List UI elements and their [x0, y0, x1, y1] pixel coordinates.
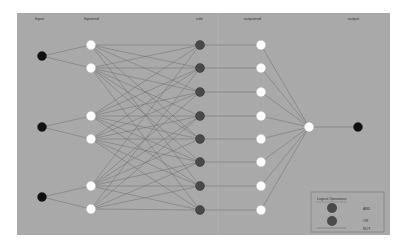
node-input-2: [38, 193, 47, 202]
node-rule-1: [196, 64, 205, 73]
edge-inputrnd-rule: [91, 139, 200, 162]
legend-or-icon: [327, 216, 337, 226]
node-outputrnd-7: [257, 206, 266, 215]
column-label-rule: rule: [196, 16, 203, 21]
edge-inputrnd-rule: [91, 45, 200, 116]
node-rule-5: [196, 158, 205, 167]
edge-input-inputrnd: [42, 197, 91, 209]
node-outputrnd-5: [257, 158, 266, 167]
node-outputrnd-2: [257, 88, 266, 97]
node-output-0: [354, 123, 363, 132]
node-inputrnd-2: [87, 112, 96, 121]
node-inputrnd-4: [87, 182, 96, 191]
node-rule-2: [196, 88, 205, 97]
edge-inputrnd-rule: [91, 92, 200, 116]
node-outputrnd-3: [257, 112, 266, 121]
legend-or-label: OR: [363, 219, 369, 223]
column-label-outputrnd: outputrnd: [244, 16, 261, 21]
node-outputrnd-6: [257, 182, 266, 191]
node-rule-4: [196, 135, 205, 144]
legend-title: Logical Operations: [317, 197, 346, 201]
edge-input-inputrnd: [42, 186, 91, 197]
legend-not-label: NOT: [363, 227, 371, 231]
node-rule-7: [196, 206, 205, 215]
edge-outputrnd-sum: [261, 45, 309, 127]
legend-and-icon: [327, 203, 337, 213]
edge-inputrnd-rule: [91, 116, 200, 209]
node-rule-3: [196, 112, 205, 121]
legend: Logical Operations AND OR NOT: [311, 192, 384, 232]
column-label-output: output: [348, 16, 360, 21]
node-outputrnd-0: [257, 41, 266, 50]
edge-inputrnd-rule: [91, 209, 200, 210]
node-rule-0: [196, 41, 205, 50]
node-rule-6: [196, 182, 205, 191]
edge-input-inputrnd: [42, 45, 91, 56]
edge-input-inputrnd: [42, 116, 91, 127]
column-labels: InputInputrndruleoutputrndoutput: [35, 16, 360, 21]
edge-inputrnd-rule: [91, 68, 200, 92]
node-sum-0: [305, 123, 314, 132]
node-inputrnd-1: [87, 64, 96, 73]
edge-input-inputrnd: [42, 127, 91, 139]
node-input-1: [38, 123, 47, 132]
node-input-0: [38, 52, 47, 61]
edge-outputrnd-sum: [261, 127, 309, 139]
network-diagram: InputInputrndruleoutputrndoutput Logical…: [0, 0, 407, 248]
legend-and-label: AND: [363, 207, 371, 211]
node-outputrnd-4: [257, 135, 266, 144]
edge-inputrnd-rule: [91, 45, 200, 92]
node-inputrnd-5: [87, 205, 96, 214]
node-inputrnd-3: [87, 135, 96, 144]
edge-inputrnd-rule: [91, 68, 200, 162]
edge-inputrnd-rule: [91, 162, 200, 186]
edge-inputrnd-rule: [91, 139, 200, 210]
edge-outputrnd-sum: [261, 127, 309, 210]
column-label-inputrnd: Inputrnd: [84, 16, 99, 21]
node-inputrnd-0: [87, 41, 96, 50]
node-outputrnd-1: [257, 64, 266, 73]
edge-input-inputrnd: [42, 56, 91, 68]
column-label-input: Input: [35, 16, 45, 21]
edge-inputrnd-rule: [91, 162, 200, 209]
